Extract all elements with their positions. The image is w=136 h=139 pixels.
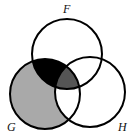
label-h: H [117,120,128,134]
venn-diagram: F G H [0,0,136,139]
label-f: F [62,2,71,16]
label-g: G [7,120,16,134]
